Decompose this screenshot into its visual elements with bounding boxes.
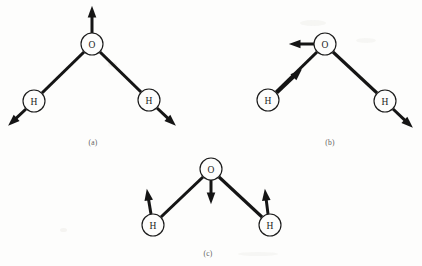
arrow-hydrogen-left-down <box>15 109 26 119</box>
arrow-hydrogen-right-up-head <box>262 189 271 201</box>
arrow-oxygen-left-head <box>289 40 301 49</box>
arrow-hydrogen-right-down <box>157 108 169 119</box>
bond-o-h-left <box>42 52 84 93</box>
atom-label-hydrogen-left: H <box>264 96 271 106</box>
bond-o-h-right <box>219 177 262 217</box>
molecule-diagram-canvas: OHHOHHOHH <box>0 0 422 266</box>
atom-label-hydrogen-right: H <box>381 97 388 107</box>
bond-o-h-right <box>333 52 377 93</box>
atom-label-hydrogen-right: H <box>266 221 273 231</box>
arrow-hydrogen-left-up <box>148 198 151 214</box>
atom-label-hydrogen-left: H <box>30 97 37 107</box>
panel-c: OHH <box>142 158 281 236</box>
arrow-hydrogen-left-up-head <box>144 189 152 201</box>
bond-o-h-right <box>100 52 141 92</box>
atom-label-hydrogen-right: H <box>145 96 152 106</box>
atom-label-oxygen: O <box>321 40 328 50</box>
panel-a: OHH <box>8 6 176 126</box>
arrow-oxygen-down-head <box>207 193 216 205</box>
arrow-hydrogen-left-toward-oxygen <box>277 76 295 93</box>
panel-b: OHH <box>257 33 413 128</box>
arrow-hydrogen-right-up <box>266 198 268 214</box>
panel-caption-c: (c) <box>203 249 212 258</box>
atom-label-oxygen: O <box>207 165 214 175</box>
arrow-oxygen-up-head <box>88 6 97 18</box>
arrow-hydrogen-right-away <box>393 109 406 121</box>
atom-label-hydrogen-left: H <box>149 221 156 231</box>
bond-o-h-left <box>161 177 203 217</box>
panel-caption-b: (b) <box>325 138 335 147</box>
panel-caption-a: (a) <box>88 138 97 147</box>
atom-label-oxygen: O <box>88 40 95 50</box>
water-vibrational-modes-figure: OHHOHHOHH (a) (b) (c) <box>0 0 422 266</box>
